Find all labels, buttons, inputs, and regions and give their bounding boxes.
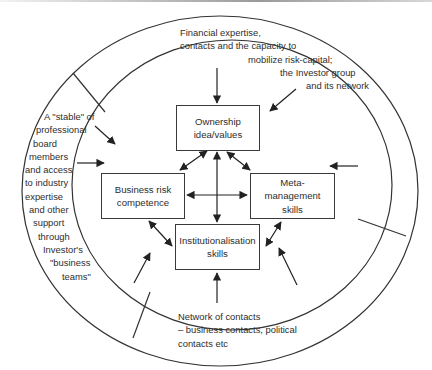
label-top-segment: Financial expertise, contacts and the ca… <box>180 26 369 92</box>
arrow-ownership-business <box>180 151 207 170</box>
box-meta-management-skills: Meta- management skills <box>250 173 335 219</box>
divider-bottom-left <box>133 292 150 338</box>
box-business-risk-line-2: competence <box>115 196 172 209</box>
box-institutionalisation-skills: Institutionalisation skills <box>175 224 260 270</box>
box-meta-line-1: Meta- <box>265 176 321 189</box>
label-bottom-segment: Network of contacts – business contacts,… <box>178 310 297 350</box>
arrow-bottom-right <box>279 248 297 285</box>
left-line-9: support <box>24 216 94 229</box>
left-line-6: to industry <box>24 176 94 189</box>
box-meta-line-2: management <box>265 189 321 202</box>
left-line-5: and access <box>24 163 94 176</box>
arrow-business-inst <box>149 221 172 246</box>
bottom-line-3: contacts etc <box>178 337 297 350</box>
divider-right <box>358 219 406 236</box>
arrow-left-upper <box>95 126 115 144</box>
top-line-5: and its network <box>180 79 369 92</box>
left-line-2: professional <box>24 123 94 136</box>
bottom-line-1: Network of contacts <box>178 310 297 323</box>
arrow-meta-inst <box>266 222 281 246</box>
left-line-13: teams" <box>24 270 94 283</box>
left-line-1: A "stable" of <box>24 110 94 123</box>
left-line-8: and other <box>24 203 94 216</box>
left-line-11: Investor's <box>24 243 94 256</box>
top-line-1: Financial expertise, <box>180 26 369 39</box>
top-line-2: contacts and the capacity to <box>180 39 369 52</box>
left-line-10: through <box>24 230 94 243</box>
box-ownership-line-2: idea/values <box>194 128 243 141</box>
left-line-4: members <box>24 150 94 163</box>
box-business-risk-competence: Business risk competence <box>101 173 185 219</box>
box-ownership-line-1: Ownership <box>194 115 243 128</box>
left-line-3: board <box>24 137 94 150</box>
top-line-4: the Investor group <box>180 66 369 79</box>
box-inst-line-2: skills <box>179 247 255 260</box>
divider-top-left <box>73 73 105 112</box>
top-line-3: mobilize risk-capital; <box>180 53 369 66</box>
left-line-7: expertise <box>24 190 94 203</box>
box-ownership-idea-values: Ownership idea/values <box>176 105 260 151</box>
arrow-ownership-meta <box>227 152 250 170</box>
box-inst-line-1: Institutionalisation <box>179 234 255 247</box>
bottom-line-2: – business contacts, political <box>178 323 297 336</box>
box-meta-line-3: skills <box>265 203 321 216</box>
left-line-12: "business <box>24 256 94 269</box>
box-business-risk-line-1: Business risk <box>115 183 172 196</box>
label-left-segment: A "stable" of professional board members… <box>24 110 94 283</box>
arrow-bottom-left <box>134 253 150 283</box>
